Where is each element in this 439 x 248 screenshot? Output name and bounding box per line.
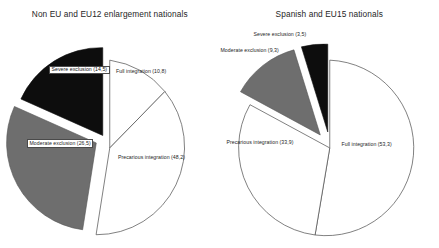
slice-label-moderate-exclusion: Moderate exclusion (9,3) — [221, 48, 279, 54]
pie-right-svg — [220, 0, 439, 248]
slice-label-moderate-exclusion: Moderate exclusion (26,5) — [27, 139, 93, 148]
slice-label-full-integration: Full integration (10,8) — [116, 69, 166, 75]
slice-label-severe-exclusion: Severe exclusion (3,5) — [254, 32, 307, 38]
slice-label-precarious-integration: Precarious integration (48,2) — [118, 155, 185, 161]
slice-label-precarious-integration: Precarious integration (33,9) — [227, 140, 294, 146]
pie-left-svg — [0, 0, 220, 248]
chart-panel-left: Non EU and EU12 enlargement nationals Se… — [0, 0, 220, 248]
slice-label-severe-exclusion: Severe exclusion (14,5) — [49, 66, 110, 75]
pie-left — [0, 0, 220, 248]
chart-panel-right: Spanish and EU15 nationals Severe exclus… — [220, 0, 439, 248]
slice-label-full-integration: Full integration (53,3) — [342, 142, 392, 148]
pie-chart-figure: Non EU and EU12 enlargement nationals Se… — [0, 0, 439, 248]
pie-right — [220, 0, 439, 248]
